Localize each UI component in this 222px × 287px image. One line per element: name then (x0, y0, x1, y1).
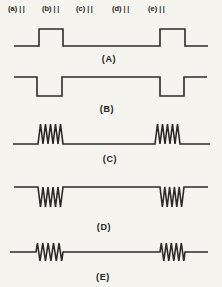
waveform-e-bipolar-burst-trace (10, 243, 208, 261)
waveform-a-positive-pulse-trace (14, 29, 208, 46)
waveform-d-label: (D) (97, 222, 111, 232)
waveform-b-negative-pulse-trace (14, 77, 207, 96)
waveform-traces-canvas (0, 0, 222, 287)
waveform-c-burst-up-trace (13, 124, 210, 144)
waveform-e-label: (E) (96, 272, 110, 282)
waveform-a-label: (A) (102, 54, 116, 64)
waveform-b-label: (B) (100, 104, 114, 114)
waveform-figure: (a) || (b) || (c) || (d) || (e) || (A) (… (0, 0, 222, 287)
waveform-d-burst-down-trace (14, 187, 208, 207)
waveform-c-label: (C) (103, 154, 117, 164)
